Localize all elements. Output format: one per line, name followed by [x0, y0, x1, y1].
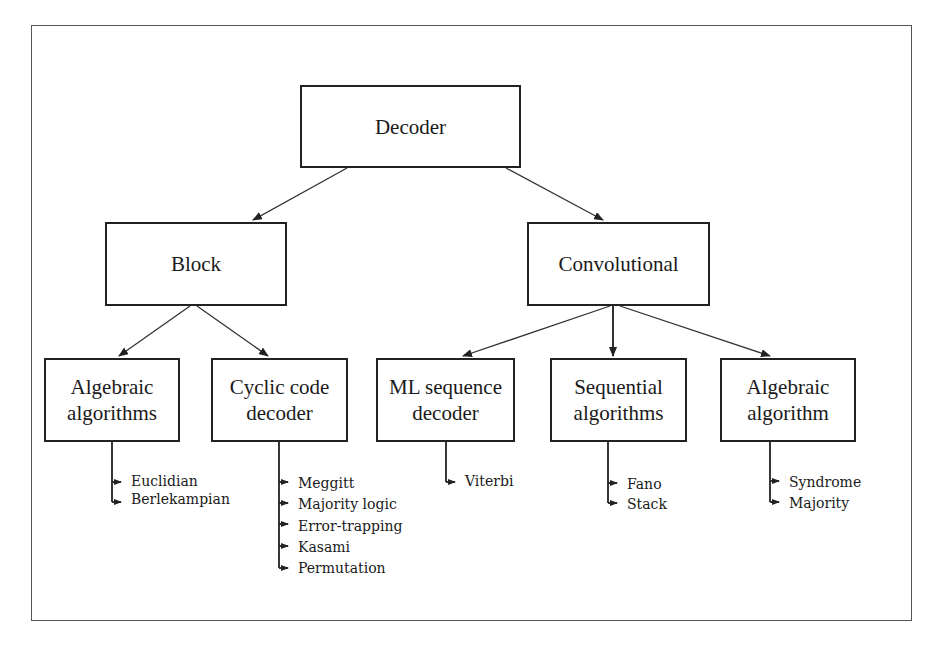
node-sequential-algorithms: Sequential algorithms [550, 358, 687, 442]
leaf-item: Stack [621, 494, 667, 514]
node-label: Sequential algorithms [574, 374, 664, 426]
node-block: Block [105, 222, 287, 306]
leaf-item: Fano [621, 474, 667, 494]
node-algebraic-algorithms: Algebraic algorithms [44, 358, 180, 442]
leaf-list-ml-sequence-decoder: Viterbi [459, 473, 513, 491]
leaf-item: Syndrome [783, 472, 861, 493]
leaf-item: Berlekampian [125, 491, 230, 509]
leaf-list-sequential-algorithms: Fano Stack [621, 474, 667, 514]
leaf-list-algebraic-algorithm: Syndrome Majority [783, 472, 861, 514]
node-label: Convolutional [558, 251, 678, 277]
node-label: Algebraic algorithms [67, 374, 157, 426]
leaf-item: Meggitt [292, 473, 403, 494]
node-ml-sequence-decoder: ML sequence decoder [376, 358, 515, 442]
node-label: Cyclic code decoder [230, 374, 330, 426]
leaf-item: Permutation [292, 558, 403, 579]
leaf-item: Euclidian [125, 473, 230, 491]
leaf-item: Majority [783, 493, 861, 514]
leaf-item: Majority logic [292, 494, 403, 515]
node-decoder: Decoder [300, 85, 521, 168]
node-convolutional: Convolutional [527, 222, 710, 306]
node-label: Algebraic algorithm [747, 374, 830, 426]
leaf-item: Kasami [292, 537, 403, 558]
node-label: Decoder [375, 114, 446, 140]
leaf-list-cyclic-code-decoder: Meggitt Majority logic Error-trapping Ka… [292, 473, 403, 579]
node-algebraic-algorithm: Algebraic algorithm [720, 358, 856, 442]
node-label: Block [171, 251, 221, 277]
leaf-item: Error-trapping [292, 516, 403, 537]
leaf-list-algebraic-algorithms: Euclidian Berlekampian [125, 473, 230, 508]
leaf-item: Viterbi [459, 473, 513, 491]
node-cyclic-code-decoder: Cyclic code decoder [211, 358, 348, 442]
node-label: ML sequence decoder [389, 374, 502, 426]
